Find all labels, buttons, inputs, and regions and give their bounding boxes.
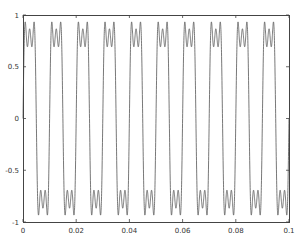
y-tick-label: -1 [12,219,19,227]
x-tick-label: 0.06 [175,227,191,235]
signal-polyline [23,22,289,215]
x-tick-label: 0 [21,227,25,235]
signal-line [23,22,289,215]
plot-frame [24,16,290,223]
x-tick-label: 0.02 [68,227,84,235]
chart: 00.020.040.060.080.1 10.50-0.5-1 [0,0,304,243]
y-tick-label: 1 [15,12,19,20]
x-tick-label: 0.04 [122,227,138,235]
y-tick-label: 0.5 [8,63,19,71]
x-tick-label: 0.1 [283,227,294,235]
y-tick-label: -0.5 [5,167,19,175]
y-tick-label: 0 [15,115,19,123]
x-tick-label: 0.08 [228,227,244,235]
y-axis: 10.50-0.5-1 [5,12,289,227]
